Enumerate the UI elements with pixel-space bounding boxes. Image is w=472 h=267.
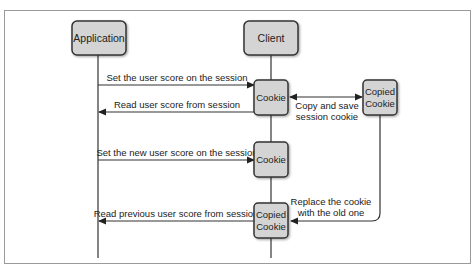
label-set-new-score: Set the new user score on the session: [96, 147, 257, 158]
participant-application-label: Application: [73, 32, 125, 44]
label-read-score: Read user score from session: [114, 99, 240, 110]
participant-application: Application: [72, 21, 126, 55]
label-replace-line1: Replace the cookie: [291, 196, 372, 207]
node-cookie-2: Cookie: [254, 142, 288, 177]
node-copied-cookie-bottom-line1: Copied: [256, 209, 286, 220]
label-replace-line2: with the old one: [297, 207, 365, 218]
label-set-score: Set the user score on the session: [107, 72, 248, 83]
node-cookie-1: Cookie: [254, 80, 288, 115]
node-copied-cookie-right-line2: Cookie: [365, 98, 395, 109]
participant-client-label: Client: [258, 32, 285, 44]
node-copied-cookie-bottom: Copied Cookie: [254, 203, 288, 238]
participant-client: Client: [244, 21, 298, 55]
label-copy-save-line2: session cookie: [296, 111, 358, 122]
label-copy-save-line1: Copy and save: [295, 100, 358, 111]
label-read-previous: Read previous user score from session: [94, 208, 259, 219]
sequence-diagram: Application Client Set the user score on…: [0, 0, 472, 267]
node-cookie-2-label: Cookie: [256, 154, 286, 165]
node-copied-cookie-bottom-line2: Cookie: [256, 221, 286, 232]
node-cookie-1-label: Cookie: [256, 92, 286, 103]
node-copied-cookie-right: Copied Cookie: [363, 80, 397, 115]
node-copied-cookie-right-line1: Copied: [365, 86, 395, 97]
